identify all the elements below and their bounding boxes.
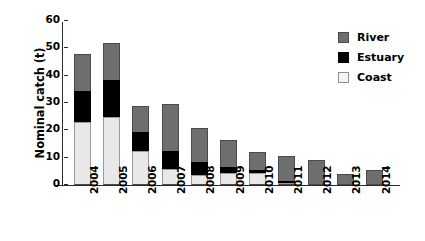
y-tick-label: 10 (45, 150, 60, 162)
y-tick-label: 20 (45, 122, 60, 134)
legend-label: Estuary (357, 51, 404, 64)
x-tick-label: 2008 (204, 166, 216, 194)
bar-stack (103, 43, 120, 185)
bar-segment-river (74, 54, 91, 91)
x-tick-label: 2012 (321, 166, 333, 194)
bar-segment-river (162, 104, 179, 150)
legend-item[interactable]: River (338, 28, 423, 46)
bar-segment-estuary (132, 132, 149, 151)
bar-segment-river (220, 140, 237, 167)
x-tick-label: 2009 (234, 166, 246, 194)
bar-segment-river (132, 106, 149, 132)
y-tick-label: 0 (53, 177, 60, 189)
x-tick-label: 2014 (380, 166, 392, 194)
y-tick-label: 40 (45, 68, 60, 80)
legend-swatch-river (338, 32, 349, 43)
legend-swatch-estuary (338, 52, 349, 63)
bar-segment-estuary (74, 91, 91, 122)
legend-label: Coast (357, 71, 392, 84)
x-tick-label: 2013 (350, 166, 362, 194)
y-tick-label: 50 (45, 40, 60, 52)
bar-segment-river (191, 128, 208, 162)
y-tick-label: 60 (45, 13, 60, 25)
legend-swatch-coast (338, 72, 349, 83)
legend-label: River (357, 31, 389, 44)
x-tick-label: 2011 (292, 166, 304, 194)
bar-segment-river (103, 43, 120, 80)
chart-figure: Nominal catch (t) 0102030405060 20042005… (0, 0, 425, 241)
x-tick-label: 2007 (175, 166, 187, 194)
chart-legend: RiverEstuaryCoast (338, 28, 423, 88)
x-tick-label: 2005 (117, 166, 129, 194)
x-tick-label: 2004 (88, 166, 100, 194)
bar-segment-estuary (103, 80, 120, 117)
x-tick-label: 2010 (263, 166, 275, 194)
legend-item[interactable]: Coast (338, 68, 423, 86)
y-tick-label: 30 (45, 95, 60, 107)
x-tick-label: 2006 (146, 166, 158, 194)
legend-item[interactable]: Estuary (338, 48, 423, 66)
